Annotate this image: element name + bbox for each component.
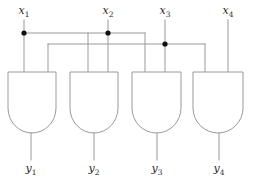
output-labels: y1 y2 y3 y4 (25, 162, 225, 177)
output-label-y3: y3 (151, 162, 163, 177)
and-gates (8, 72, 243, 133)
and-gate-4[interactable] (193, 72, 243, 133)
routing-buses (24, 33, 205, 72)
input-label-x3: x3 (160, 4, 171, 19)
input-label-x2: x2 (103, 4, 114, 19)
junction-dot-x1 (21, 30, 26, 35)
circuit-canvas: x1 x2 x3 x4 y1 y2 y3 y4 (0, 0, 253, 184)
junction-dot-x2 (105, 30, 110, 35)
input-labels: x1 x2 x3 x4 (19, 4, 234, 19)
output-label-y2: y2 (88, 162, 100, 177)
and-gate-1[interactable] (8, 72, 56, 133)
output-wires (31, 133, 219, 160)
and-gate-2[interactable] (70, 72, 118, 133)
output-label-y4: y4 (213, 162, 225, 177)
logic-circuit-diagram: x1 x2 x3 x4 y1 y2 y3 y4 (0, 0, 253, 184)
input-label-x4: x4 (223, 4, 234, 19)
output-label-y1: y1 (25, 162, 37, 177)
junction-dot-x3 (162, 41, 167, 46)
input-label-x1: x1 (19, 4, 30, 19)
input-wires (24, 20, 228, 72)
and-gate-3[interactable] (132, 72, 181, 133)
